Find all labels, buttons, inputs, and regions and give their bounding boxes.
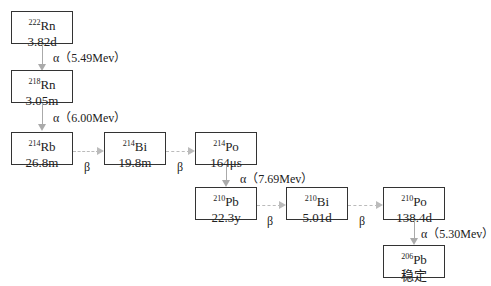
element-symbol: Rn bbox=[40, 77, 55, 92]
nuclide-box-bi214: 214Bi 19.8m bbox=[104, 132, 166, 165]
alpha-arrow-head-icon bbox=[222, 180, 230, 187]
element-symbol: Po bbox=[413, 194, 427, 209]
nuclide-box-pb206: 206Pb 稳定 bbox=[383, 245, 445, 278]
element-symbol: Bi bbox=[135, 139, 147, 154]
mass-number: 214 bbox=[123, 139, 135, 148]
mass-number: 210 bbox=[213, 194, 225, 203]
decay-label-alpha: α（5.30Mev） bbox=[421, 224, 491, 242]
half-life: 26.8m bbox=[12, 155, 72, 171]
decay-label-alpha: α（5.49Mev） bbox=[53, 48, 126, 66]
decay-label-alpha: α（7.69Mev） bbox=[240, 169, 313, 187]
half-life: 19.8m bbox=[105, 155, 165, 171]
alpha-arrow-line bbox=[414, 220, 415, 240]
mass-number: 210 bbox=[401, 194, 413, 203]
beta-arrow-line bbox=[348, 205, 378, 206]
mass-number: 210 bbox=[305, 194, 317, 203]
nuclide-box-pb210: 210Pb 22.3y bbox=[195, 187, 257, 220]
beta-arrow-head-icon bbox=[376, 201, 383, 209]
alpha-arrow-line bbox=[42, 44, 43, 66]
mass-number: 214 bbox=[213, 139, 225, 148]
element-symbol: Bi bbox=[317, 194, 329, 209]
decay-label-beta: β bbox=[267, 214, 273, 229]
decay-label-beta: β bbox=[359, 214, 365, 229]
half-life: 稳定 bbox=[384, 268, 444, 284]
alpha-arrow-head-icon bbox=[410, 238, 418, 245]
nuclide-box-rn222: 222Rn 3.82d bbox=[11, 11, 73, 44]
beta-arrow-head-icon bbox=[188, 147, 195, 155]
alpha-arrow-line bbox=[42, 103, 43, 126]
nuclide-box-po214: 214Po 164μs bbox=[195, 132, 257, 165]
nuclide-box-bi210: 210Bi 5.01d bbox=[286, 187, 348, 220]
element-symbol: Pb bbox=[225, 194, 239, 209]
beta-arrow-line bbox=[166, 151, 190, 152]
element-symbol: Pb bbox=[413, 252, 427, 267]
half-life: 22.3y bbox=[196, 210, 256, 226]
decay-label-beta: β bbox=[177, 160, 183, 175]
decay-label-alpha: α（6.00Mev） bbox=[53, 108, 126, 126]
decay-label-beta: β bbox=[84, 160, 90, 175]
beta-arrow-head-icon bbox=[97, 147, 104, 155]
nuclide-box-rb214: 214Rb 26.8m bbox=[11, 132, 73, 165]
alpha-arrow-head-icon bbox=[38, 124, 46, 131]
element-symbol: Po bbox=[225, 139, 239, 154]
mass-number: 214 bbox=[28, 139, 40, 148]
nuclide-box-rn218: 218Rn 3.05m bbox=[11, 70, 73, 103]
element-symbol: Rn bbox=[40, 18, 55, 33]
nuclide-box-po210: 210Po 138.4d bbox=[383, 187, 445, 220]
beta-arrow-line bbox=[73, 151, 99, 152]
element-symbol: Rb bbox=[40, 139, 55, 154]
mass-number: 222 bbox=[28, 18, 40, 27]
mass-number: 206 bbox=[401, 252, 413, 261]
beta-arrow-head-icon bbox=[279, 201, 286, 209]
half-life: 5.01d bbox=[287, 210, 347, 226]
beta-arrow-line bbox=[257, 205, 281, 206]
mass-number: 218 bbox=[28, 77, 40, 86]
